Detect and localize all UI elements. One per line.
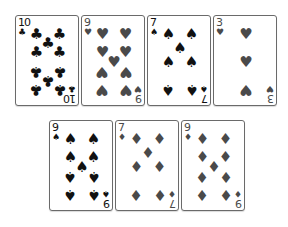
card-9-of-spades[interactable]: 9♠9♠♠♠♠♠♠♠♠♠♠: [49, 120, 113, 211]
card-7-of-spades[interactable]: 7♠7♠♠♠♠♠♠♠♠: [147, 15, 211, 106]
spades-icon: ♠: [102, 189, 110, 198]
hearts-icon: ♥: [84, 28, 92, 37]
hearts-pip-icon: ♥: [238, 54, 254, 69]
diamonds-pip-icon: ♦: [194, 168, 210, 183]
hearts-pip-icon: ♥: [94, 27, 110, 42]
hearts-pip-icon: ♥: [94, 81, 110, 96]
card-9-of-diamonds[interactable]: 9♦9♦♦♦♦♦♦♦♦♦♦: [181, 120, 245, 211]
card-9-of-hearts[interactable]: 9♥9♥♥♥♥♥♥♥♥♥♥: [81, 15, 145, 106]
clubs-icon: ♣: [68, 84, 76, 93]
diamonds-icon: ♦: [168, 189, 176, 198]
diamonds-pip-icon: ♦: [152, 159, 168, 174]
spades-pip-icon: ♠: [86, 168, 102, 183]
spades-pip-icon: ♠: [184, 54, 200, 69]
hearts-pip-icon: ♥: [118, 63, 134, 78]
spades-pip-icon: ♠: [86, 132, 102, 147]
diamonds-icon: ♦: [118, 133, 126, 142]
card-rank-bottom: 3: [268, 93, 274, 104]
card-rank-bottom: 9: [136, 93, 142, 104]
clubs-pip-icon: ♣: [52, 81, 68, 96]
hearts-pip-icon: ♥: [238, 27, 254, 42]
spades-pip-icon: ♠: [86, 186, 102, 201]
diamonds-icon: ♦: [234, 189, 242, 198]
card-rank-bottom: 9: [236, 198, 242, 209]
spades-pip-icon: ♠: [62, 132, 78, 147]
hearts-icon: ♥: [266, 84, 274, 93]
diamonds-pip-icon: ♦: [194, 132, 210, 147]
hearts-pip-icon: ♥: [118, 27, 134, 42]
hearts-icon: ♥: [134, 84, 142, 93]
clubs-pip-icon: ♣: [28, 45, 44, 60]
spades-pip-icon: ♠: [62, 168, 78, 183]
spades-pip-icon: ♠: [184, 81, 200, 96]
diamonds-pip-icon: ♦: [218, 186, 234, 201]
hearts-pip-icon: ♥: [238, 81, 254, 96]
diamonds-icon: ♦: [184, 133, 192, 142]
card-rank-bottom: 7: [170, 198, 176, 209]
hearts-pip-icon: ♥: [118, 81, 134, 96]
spades-icon: ♠: [150, 28, 158, 37]
spades-pip-icon: ♠: [160, 81, 176, 96]
spades-icon: ♠: [52, 133, 60, 142]
diamonds-pip-icon: ♦: [152, 186, 168, 201]
spades-icon: ♠: [200, 84, 208, 93]
hearts-icon: ♥: [216, 28, 224, 37]
card-rank-bottom: 7: [202, 93, 208, 104]
diamonds-pip-icon: ♦: [194, 186, 210, 201]
diamonds-pip-icon: ♦: [218, 168, 234, 183]
clubs-pip-icon: ♣: [28, 81, 44, 96]
clubs-icon: ♣: [18, 28, 26, 37]
diamonds-pip-icon: ♦: [128, 186, 144, 201]
diamonds-pip-icon: ♦: [128, 159, 144, 174]
spades-pip-icon: ♠: [62, 186, 78, 201]
spades-pip-icon: ♠: [160, 54, 176, 69]
card-10-of-clubs[interactable]: 10♣10♣♣♣♣♣♣♣♣♣♣♣: [15, 15, 79, 106]
card-3-of-hearts[interactable]: 3♥3♥♥♥♥: [213, 15, 277, 106]
diamonds-pip-icon: ♦: [218, 132, 234, 147]
card-7-of-diamonds[interactable]: 7♦7♦♦♦♦♦♦♦♦: [115, 120, 179, 211]
clubs-pip-icon: ♣: [52, 45, 68, 60]
card-rank-bottom: 9: [104, 198, 110, 209]
hearts-pip-icon: ♥: [94, 63, 110, 78]
